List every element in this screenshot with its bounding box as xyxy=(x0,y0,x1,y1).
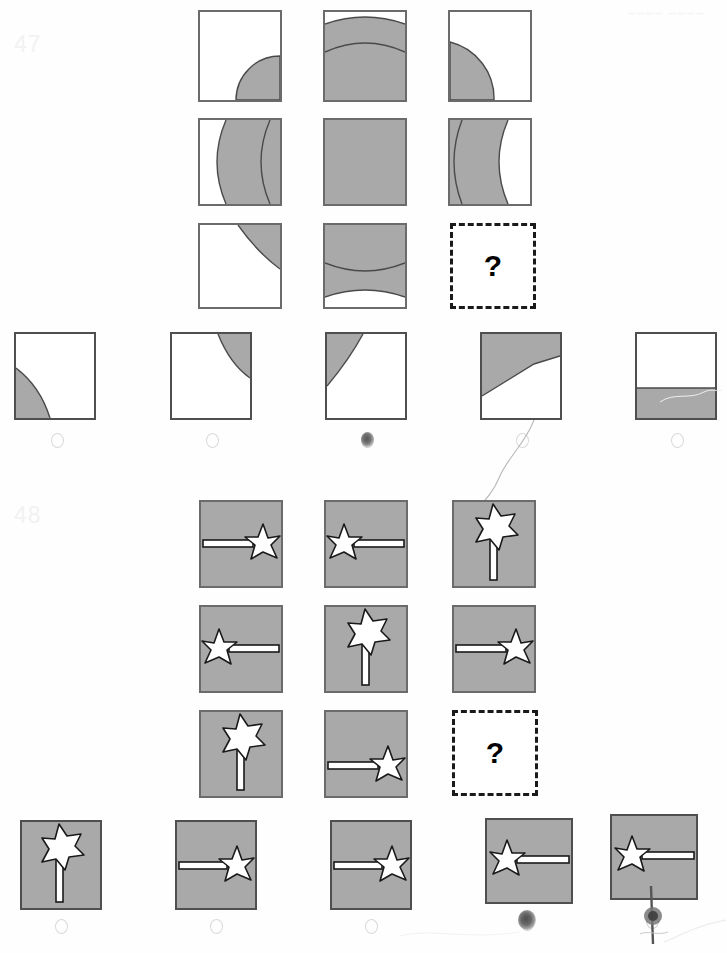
wand-right xyxy=(334,846,409,881)
option-bubble-48-4[interactable] xyxy=(521,916,534,931)
option-47-2[interactable] xyxy=(170,332,252,420)
option-47-3[interactable] xyxy=(325,332,407,420)
question-mark-47: ? xyxy=(484,251,502,281)
matrix-cell-47-r2c3 xyxy=(448,118,532,206)
wand-up xyxy=(348,609,390,685)
wand-left xyxy=(615,836,694,871)
option-bubble-48-2[interactable] xyxy=(210,919,223,934)
option-48-4[interactable] xyxy=(485,818,573,904)
option-bubble-48-1[interactable] xyxy=(55,919,68,934)
matrix-cell-48-missing[interactable]: ? xyxy=(452,710,538,796)
puzzle-48-number: 48 xyxy=(14,502,42,529)
wand-right xyxy=(456,629,533,664)
wand-up xyxy=(223,714,265,790)
matrix-cell-47-r3c2 xyxy=(323,223,407,309)
option-bubble-47-1[interactable] xyxy=(51,433,64,448)
paper-edge-artifact xyxy=(664,918,726,948)
matrix-cell-47-r1c1 xyxy=(198,10,282,102)
matrix-cell-48-r2c3 xyxy=(452,605,536,693)
option-47-4[interactable] xyxy=(480,332,562,420)
wand-right xyxy=(203,524,280,559)
option-48-5[interactable] xyxy=(610,814,698,900)
matrix-cell-47-r1c2 xyxy=(323,10,407,102)
matrix-cell-48-r1c3 xyxy=(452,500,536,588)
option-48-3[interactable] xyxy=(330,820,412,910)
matrix-cell-48-r1c1 xyxy=(199,500,283,588)
matrix-cell-48-r1c2 xyxy=(324,500,408,588)
puzzle-47-number: 47 xyxy=(14,31,42,58)
wand-right xyxy=(328,746,405,781)
option-bubble-47-3[interactable] xyxy=(361,433,374,448)
option-bubble-47-2[interactable] xyxy=(206,433,219,448)
paper-fiber-artifact-lower xyxy=(400,924,520,944)
option-47-5[interactable] xyxy=(635,332,717,420)
wand-left xyxy=(202,629,279,664)
option-bubble-47-5[interactable] xyxy=(671,433,684,448)
matrix-cell-47-r1c3 xyxy=(448,10,532,102)
matrix-cell-48-r2c2 xyxy=(324,605,408,693)
matrix-cell-47-missing[interactable]: ? xyxy=(450,223,536,309)
option-bubble-47-4[interactable] xyxy=(516,433,529,448)
scanned-worksheet-page: ▁▁▁▁ ▁▁▁▁ 47 xyxy=(0,0,727,953)
option-48-2[interactable] xyxy=(175,820,257,910)
option-bubble-48-3[interactable] xyxy=(365,919,378,934)
question-mark-48: ? xyxy=(486,738,504,768)
matrix-cell-47-r2c2 xyxy=(323,118,407,206)
wand-up xyxy=(476,504,518,580)
option-47-1[interactable] xyxy=(14,332,96,420)
wand-up xyxy=(42,824,84,902)
matrix-cell-48-r3c1 xyxy=(199,710,283,798)
top-right-scan-artifact: ▁▁▁▁ ▁▁▁▁ xyxy=(628,4,705,14)
option-bubble-48-5[interactable] xyxy=(646,914,659,929)
matrix-cell-48-r3c2 xyxy=(324,710,408,798)
matrix-cell-47-r2c1 xyxy=(198,118,282,206)
wand-left xyxy=(327,524,404,559)
wand-right xyxy=(179,846,254,881)
wand-left xyxy=(490,840,569,875)
matrix-cell-48-r2c1 xyxy=(199,605,283,693)
option-48-1[interactable] xyxy=(20,820,102,910)
matrix-cell-47-r3c1 xyxy=(198,223,282,309)
